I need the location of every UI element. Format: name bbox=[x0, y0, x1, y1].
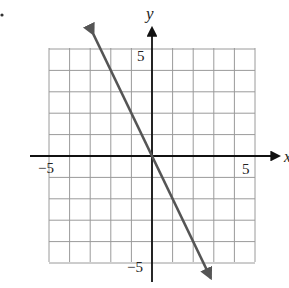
coordinate-plane: x y −5 5 5 −5 bbox=[0, 0, 289, 288]
x-axis-label: x bbox=[283, 148, 289, 165]
y-max-label: 5 bbox=[137, 48, 145, 64]
bullet-marker bbox=[0, 13, 3, 16]
x-max-label: 5 bbox=[242, 161, 250, 177]
x-min-label: −5 bbox=[38, 160, 54, 176]
y-min-label: −5 bbox=[127, 259, 143, 275]
y-axis-label: y bbox=[144, 4, 154, 23]
